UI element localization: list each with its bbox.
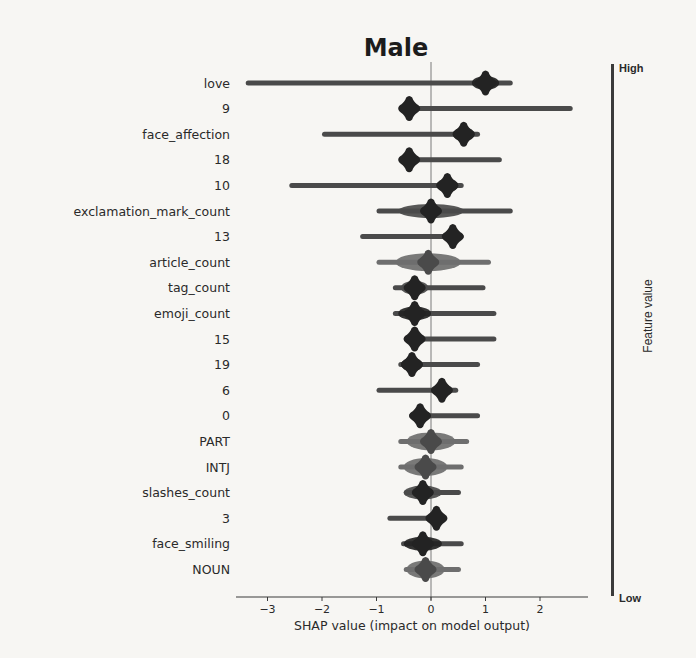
feature-label: tag_count xyxy=(168,280,230,295)
feature-label: 0 xyxy=(222,408,230,423)
shap-summary-chart: Male love9face_affection1810exclamation_… xyxy=(0,0,696,658)
feature-row xyxy=(393,301,497,326)
feature-label: emoji_count xyxy=(154,306,230,321)
colorbar-title: Feature value xyxy=(641,279,655,353)
feature-row xyxy=(377,250,491,275)
feature-row xyxy=(398,429,469,454)
shap-cluster xyxy=(409,403,431,428)
shap-cluster xyxy=(401,352,423,377)
feature-row xyxy=(393,275,486,300)
feature-row xyxy=(360,224,464,249)
feature-row xyxy=(401,531,464,556)
feature-row xyxy=(398,147,502,172)
shap-cluster xyxy=(431,378,453,403)
feature-label: 9 xyxy=(222,101,230,116)
x-tick-label: −2 xyxy=(314,603,330,616)
feature-label: 13 xyxy=(214,229,230,244)
feature-row xyxy=(322,122,480,147)
shap-cluster xyxy=(398,147,420,172)
shap-range-bar xyxy=(404,106,573,111)
feature-row xyxy=(377,199,513,224)
feature-label: exclamation_mark_count xyxy=(74,204,231,219)
colorbar-low-label: Low xyxy=(619,592,641,604)
feature-row xyxy=(404,480,461,505)
feature-label: article_count xyxy=(149,255,230,270)
shap-cluster xyxy=(442,224,464,249)
x-tick-label: −3 xyxy=(259,603,275,616)
feature-row xyxy=(387,506,447,531)
x-tick-label: 2 xyxy=(537,603,544,616)
feature-rows xyxy=(246,71,573,582)
shap-cluster xyxy=(415,455,437,480)
x-tick-label: 1 xyxy=(482,603,489,616)
feature-row xyxy=(289,173,463,198)
feature-label: face_smiling xyxy=(152,536,230,551)
feature-row xyxy=(398,96,573,121)
colorbar xyxy=(611,64,614,596)
feature-label: slashes_count xyxy=(142,485,230,500)
feature-label: 6 xyxy=(222,383,230,398)
shap-cluster xyxy=(417,250,439,275)
shap-cluster xyxy=(415,557,437,582)
shap-cluster xyxy=(404,301,426,326)
feature-row xyxy=(377,378,459,403)
x-axis-ticks: −3−2−1012 xyxy=(259,597,543,616)
feature-label: 15 xyxy=(214,332,230,347)
feature-row xyxy=(404,327,497,352)
feature-label: INTJ xyxy=(206,460,230,475)
shap-cluster xyxy=(404,327,426,352)
feature-label: PART xyxy=(199,434,230,449)
feature-label: 10 xyxy=(214,178,230,193)
chart-title: Male xyxy=(364,34,429,62)
feature-label: 3 xyxy=(222,511,230,526)
feature-labels: love9face_affection1810exclamation_mark_… xyxy=(74,76,231,577)
shap-cluster xyxy=(398,96,420,121)
feature-row xyxy=(409,403,480,428)
feature-row xyxy=(246,71,513,96)
shap-cluster xyxy=(420,199,442,224)
feature-row xyxy=(404,557,461,582)
x-tick-label: 0 xyxy=(428,603,435,616)
colorbar-high-label: High xyxy=(619,62,644,74)
shap-cluster xyxy=(453,122,475,147)
x-tick-label: −1 xyxy=(368,603,384,616)
feature-label: love xyxy=(204,76,231,91)
feature-label: NOUN xyxy=(192,562,230,577)
shap-cluster xyxy=(436,173,458,198)
feature-row xyxy=(398,352,480,377)
feature-label: 18 xyxy=(214,152,230,167)
feature-label: 19 xyxy=(214,357,230,372)
shap-cluster xyxy=(475,71,497,96)
shap-cluster xyxy=(420,429,442,454)
x-axis-label: SHAP value (impact on model output) xyxy=(294,618,530,633)
shap-cluster xyxy=(404,275,426,300)
feature-label: face_affection xyxy=(142,127,230,142)
shap-cluster xyxy=(425,506,447,531)
